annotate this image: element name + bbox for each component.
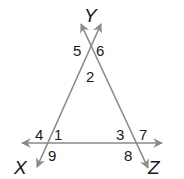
vertex-label-y: Y <box>84 5 98 26</box>
vertex-label-x: X <box>13 157 28 178</box>
angle-label-8: 8 <box>124 147 132 164</box>
vertex-label-z: Z <box>147 157 161 178</box>
angle-label-5: 5 <box>73 42 81 59</box>
diagram-lines: Y X Z 1 2 3 4 5 6 7 8 9 <box>0 0 184 179</box>
angle-label-7: 7 <box>139 126 147 143</box>
line-zy <box>81 24 148 168</box>
angle-label-6: 6 <box>96 42 104 59</box>
triangle-diagram: Y X Z 1 2 3 4 5 6 7 8 9 <box>0 0 184 179</box>
angle-label-9: 9 <box>48 147 56 164</box>
angle-label-2: 2 <box>86 68 94 85</box>
angle-label-1: 1 <box>54 126 62 143</box>
angle-label-4: 4 <box>35 126 43 143</box>
angle-label-3: 3 <box>116 126 124 143</box>
